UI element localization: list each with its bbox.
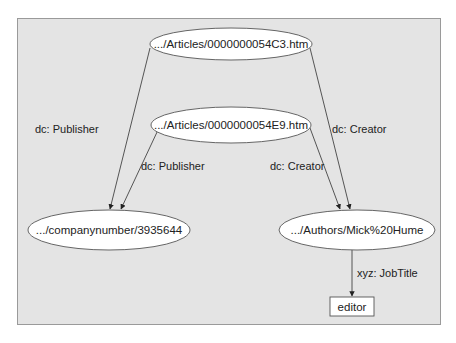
node-companynumber[interactable]: .../companynumber/3935644 — [28, 210, 190, 250]
edge-label-publisher-1: dc: Publisher — [35, 123, 99, 135]
node-label: .../Authors/Mick%20Hume — [291, 224, 424, 236]
node-editor-literal[interactable]: editor — [330, 297, 374, 316]
node-label: .../Articles/0000000054C3.htm — [154, 38, 309, 50]
node-label: .../Articles/0000000054E9.htm — [154, 119, 308, 131]
node-label: editor — [338, 301, 367, 313]
edge-label-publisher-2: dc: Publisher — [141, 160, 205, 172]
node-author-mick-hume[interactable]: .../Authors/Mick%20Hume — [279, 210, 435, 250]
rdf-graph: dc: Publisher dc: Creator dc: Publisher … — [0, 0, 456, 343]
edge-label-creator-2: dc: Creator — [270, 160, 325, 172]
node-article-54c3[interactable]: .../Articles/0000000054C3.htm — [150, 28, 312, 60]
edge-article1-publisher — [110, 48, 150, 209]
node-article-54e9[interactable]: .../Articles/0000000054E9.htm — [151, 107, 311, 143]
node-label: .../companynumber/3935644 — [36, 224, 183, 236]
edge-label-creator-1: dc: Creator — [332, 123, 387, 135]
edge-label-jobtitle: xyz: JobTitle — [357, 267, 418, 279]
